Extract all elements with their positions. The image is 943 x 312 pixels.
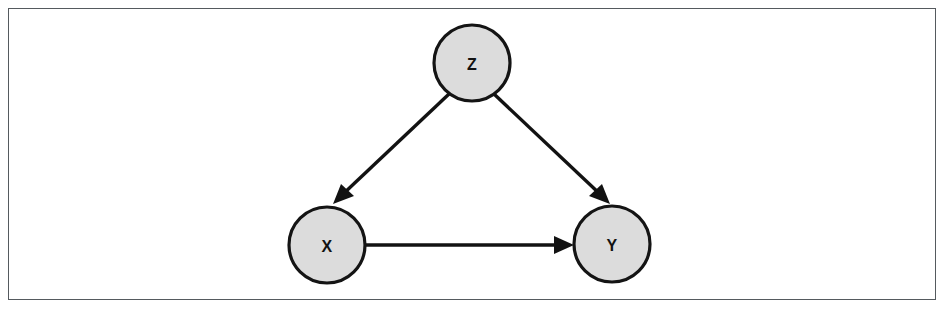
figure-root: Z X Y: [0, 0, 943, 312]
node-y-label: Y: [607, 237, 618, 254]
dag-canvas: Z X Y: [0, 0, 943, 312]
node-y[interactable]: Y: [574, 206, 650, 282]
node-z[interactable]: Z: [434, 25, 510, 101]
node-z-label: Z: [467, 56, 477, 73]
node-x[interactable]: X: [289, 207, 365, 283]
edge-z-to-y: [494, 94, 610, 204]
edge-z-to-x: [333, 94, 449, 204]
edge-z-to-y-line: [494, 94, 601, 195]
edge-x-to-y: [365, 236, 574, 254]
node-x-label: X: [322, 238, 333, 255]
edge-z-to-x-line: [342, 94, 449, 195]
edge-x-to-y-arrowhead: [554, 236, 574, 254]
